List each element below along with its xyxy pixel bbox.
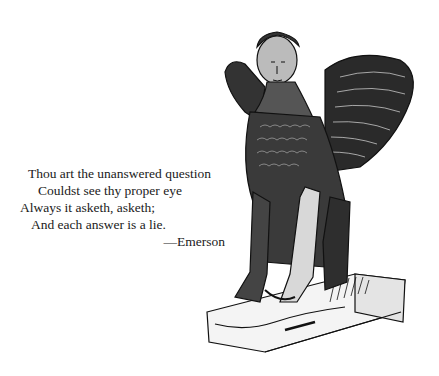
front-leg-left bbox=[235, 192, 270, 302]
poem-block: Thou art the unanswered question Couldst… bbox=[28, 165, 228, 250]
poem-line-2: Couldst see thy proper eye bbox=[28, 182, 228, 199]
sphinx-illustration bbox=[205, 12, 435, 367]
poem-attribution: —Emerson bbox=[28, 233, 228, 250]
wing-right bbox=[325, 55, 413, 172]
head bbox=[257, 36, 297, 84]
poem-line-3: Always it asketh, asketh; bbox=[20, 199, 228, 216]
poem-line-4: And each answer is a lie. bbox=[28, 216, 228, 233]
poem-line-1: Thou art the unanswered question bbox=[28, 165, 228, 182]
